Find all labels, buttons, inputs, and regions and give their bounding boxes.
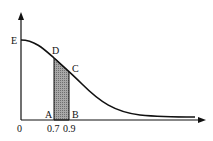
label-B: B xyxy=(72,109,79,120)
label-A: A xyxy=(45,109,53,120)
shaded-region xyxy=(54,58,69,120)
label-E: E xyxy=(11,35,17,46)
diagram-canvas: E D C A B 0 0.7 0.9 xyxy=(0,0,213,141)
label-D: D xyxy=(52,45,59,56)
tick-label-0-7: 0.7 xyxy=(47,123,60,134)
tick-label-0-9: 0.9 xyxy=(63,123,76,134)
curve xyxy=(21,40,195,117)
y-axis-arrow-icon xyxy=(18,12,24,20)
x-axis-arrow-icon xyxy=(198,117,206,123)
tick-label-0: 0 xyxy=(17,123,22,134)
label-C: C xyxy=(72,63,79,74)
